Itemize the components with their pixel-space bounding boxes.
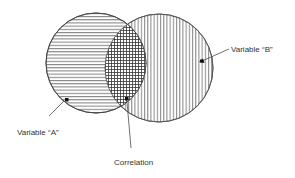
leader-variable-a — [49, 98, 69, 116]
venn-diagram: Variable “B” Variable “A” Correlation — [0, 0, 295, 178]
label-correlation: Correlation — [114, 158, 153, 167]
label-variable-a: Variable “A” — [17, 128, 59, 137]
label-variable-b: Variable “B” — [231, 45, 273, 54]
